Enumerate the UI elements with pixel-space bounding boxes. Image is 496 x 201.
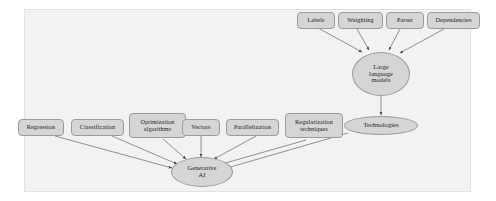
edge-optimization-to-genai xyxy=(163,139,186,159)
node-weighting[interactable]: Weighting xyxy=(338,12,383,29)
edge-weighting-to-llm xyxy=(357,29,369,50)
node-large-language-models[interactable]: Large language models xyxy=(352,52,410,96)
node-labels[interactable]: Labels xyxy=(297,12,335,29)
diagram-canvas: Labels Weighting Parser Dependencies Lar… xyxy=(0,0,496,201)
edge-regression-to-genai xyxy=(55,136,172,168)
edge-technologies-to-genai xyxy=(227,133,348,168)
node-technologies[interactable]: Technologies xyxy=(344,116,418,135)
node-parser[interactable]: Parser xyxy=(386,12,424,29)
node-generative-ai[interactable]: Generative AI xyxy=(171,157,233,187)
node-regression[interactable]: Regression xyxy=(18,119,64,136)
node-generative-ai-text: Generative AI xyxy=(185,165,218,178)
node-dependencies-text: Dependencies xyxy=(434,17,474,24)
node-weighting-text: Weighting xyxy=(345,17,376,24)
node-dependencies[interactable]: Dependencies xyxy=(427,12,480,29)
node-technologies-text: Technologies xyxy=(361,122,400,129)
edge-parallelization-to-genai xyxy=(214,136,256,159)
node-labels-text: Labels xyxy=(305,17,326,24)
node-parser-text: Parser xyxy=(395,17,415,24)
node-classification-text: Classification xyxy=(78,124,117,131)
edge-regularization-to-genai xyxy=(222,140,306,164)
node-optimization-algorithms[interactable]: Optimization algorithms xyxy=(129,113,186,138)
node-vectors-text: Vectors xyxy=(189,124,212,131)
node-vectors[interactable]: Vectors xyxy=(182,119,220,136)
node-large-language-models-text: Large language models xyxy=(367,64,395,84)
node-regression-text: Regression xyxy=(25,124,58,131)
edge-layer xyxy=(0,0,496,201)
node-regularization-techniques-text: Regularization techniques xyxy=(293,119,335,132)
edge-dependencies-to-llm xyxy=(400,29,444,53)
node-regularization-techniques[interactable]: Regularization techniques xyxy=(285,113,343,138)
node-optimization-algorithms-text: Optimization algorithms xyxy=(139,119,177,132)
node-classification[interactable]: Classification xyxy=(71,119,124,136)
edge-labels-to-llm xyxy=(318,28,362,52)
node-parallelization-text: Parallelization xyxy=(232,124,273,131)
edge-parser-to-llm xyxy=(389,29,400,50)
edge-classification-to-genai xyxy=(112,136,177,164)
node-parallelization[interactable]: Parallelization xyxy=(226,119,279,136)
